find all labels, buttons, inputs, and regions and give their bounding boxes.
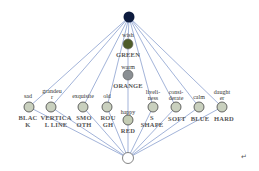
node-red[interactable] — [123, 115, 133, 125]
attr-label-grandeur: grandeu r — [42, 88, 61, 100]
node-s-shape[interactable] — [148, 102, 158, 112]
node-hard[interactable] — [217, 102, 227, 112]
attr-label-calm: calm — [193, 94, 205, 100]
node-blue[interactable] — [194, 102, 204, 112]
attr-label-sad: sad — [24, 93, 32, 99]
concept-label-green: GREEN — [116, 51, 140, 58]
node-rough[interactable] — [102, 102, 112, 112]
concept-line-2: GH — [100, 121, 115, 128]
concept-label-s-shape: S SHAPE — [141, 114, 164, 128]
attr-label-warm: warm — [121, 64, 135, 70]
attr-label-considerate: consi- derate — [169, 89, 184, 101]
attr-line-2: r — [42, 94, 61, 100]
attr-label-happy: happy — [121, 109, 136, 115]
bottom-node[interactable] — [123, 153, 134, 164]
node-green[interactable] — [123, 39, 133, 49]
concept-line-1: BLAC — [19, 114, 38, 121]
attr-label-exquisite: exquisite — [72, 93, 94, 99]
node-soft[interactable] — [171, 102, 181, 112]
attr-label-wish: wish — [122, 32, 133, 38]
concept-label-rough: ROU GH — [100, 114, 115, 128]
concept-label-red: RED — [121, 127, 135, 134]
concept-label-hard: HARD — [214, 115, 234, 122]
attr-line-2: ness — [146, 95, 160, 101]
concept-label-orange: ORANGE — [113, 82, 143, 89]
attr-label-daughter: daught er — [214, 89, 230, 101]
concept-line-2: SHAPE — [141, 121, 164, 128]
concept-line-2: OTH — [76, 121, 91, 128]
top-node[interactable] — [124, 12, 135, 23]
concept-label-black: BLAC K — [19, 114, 38, 128]
concept-line-1: VERTICA — [40, 114, 71, 121]
concept-line-2: L LINE — [40, 121, 71, 128]
concept-line-1: SMO — [76, 114, 91, 121]
concept-label-smooth: SMO OTH — [76, 114, 91, 128]
attr-label-old: old — [103, 93, 111, 99]
concept-line-1: S — [141, 114, 164, 121]
node-smooth[interactable] — [78, 102, 88, 112]
concept-line-2: K — [19, 121, 38, 128]
node-vertical-line[interactable] — [46, 102, 56, 112]
node-black[interactable] — [24, 102, 34, 112]
attr-line-2: derate — [169, 95, 184, 101]
concept-label-blue: BLUE — [191, 115, 210, 122]
attr-line-2: er — [214, 95, 230, 101]
node-orange[interactable] — [123, 70, 133, 80]
concept-label-soft: SOFT — [168, 115, 186, 122]
paragraph-mark: ↵ — [241, 153, 247, 161]
attr-label-liveliness: liveli- ness — [146, 89, 160, 101]
concept-line-1: ROU — [100, 114, 115, 121]
concept-label-vertical-line: VERTICA L LINE — [40, 114, 71, 128]
